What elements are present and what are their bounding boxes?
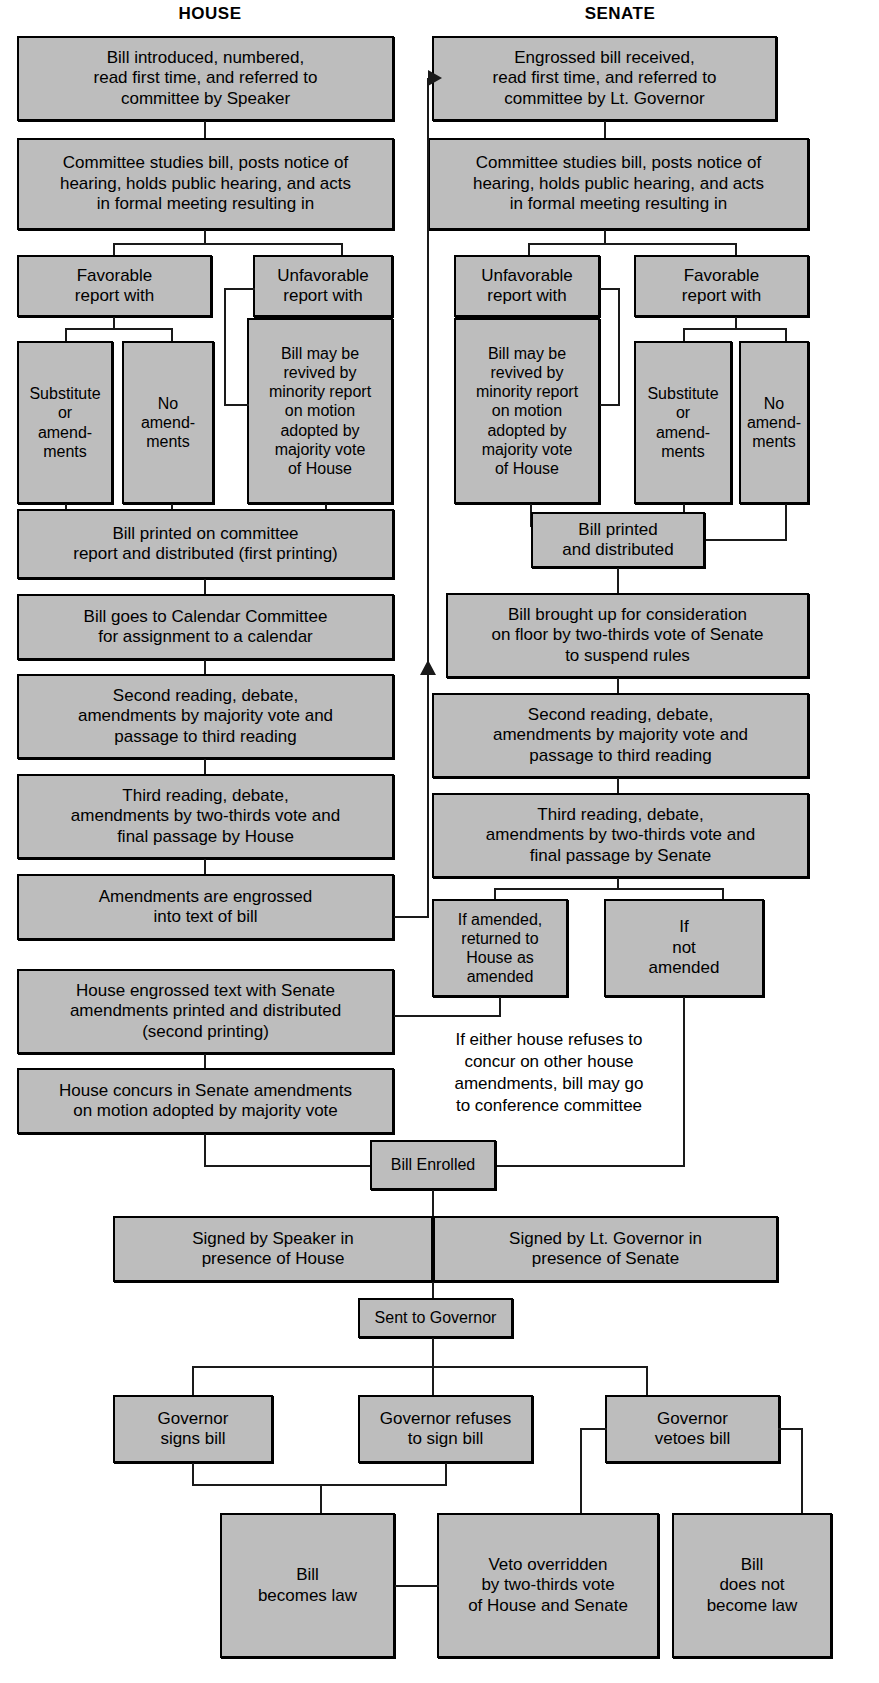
- node-bill-does-not-become-law: Bill does not become law: [672, 1513, 832, 1658]
- node-senate-if-not-amended: If not amended: [604, 899, 764, 997]
- connector-h-committee-stem: [204, 230, 206, 244]
- connector-s-unfavorable-bracket-v: [618, 288, 620, 406]
- connector-s-notamended-to-enrolled: [496, 1165, 685, 1167]
- connector-h-noamend-drop: [171, 328, 173, 342]
- node-house-bill-revived: Bill may be revived by minority report o…: [247, 318, 393, 504]
- connector-h-favorable-stem: [113, 317, 115, 329]
- connector-enrolled-to-signed: [432, 1190, 434, 1217]
- connector-s-committee-stem: [604, 230, 606, 244]
- connector-h-favorable-split: [65, 328, 173, 330]
- node-senate-no-amendments: No amend- ments: [739, 341, 809, 504]
- node-house-second-reading: Second reading, debate, amendments by ma…: [17, 674, 394, 759]
- node-house-engrossed-text-printed: House engrossed text with Senate amendme…: [17, 969, 394, 1054]
- node-senate-committee: Committee studies bill, posts notice of …: [428, 138, 809, 230]
- node-bill-becomes-law: Bill becomes law: [220, 1513, 395, 1658]
- arrow-up-riser: [420, 660, 436, 675]
- connector-h-second-to-third: [204, 759, 206, 775]
- connector-h-printed-to-calendar: [204, 579, 206, 595]
- node-senate-substitute-amendments: Substitute or amend- ments: [634, 341, 732, 504]
- node-senate-bill-revived: Bill may be revived by minority report o…: [454, 318, 600, 504]
- connector-h-unfavorable-bracket-bottom: [224, 404, 249, 406]
- connector-s-committee-split: [528, 243, 736, 245]
- node-house-calendar-committee: Bill goes to Calendar Committee for assi…: [17, 594, 394, 660]
- connector-s-third-stem: [617, 878, 619, 890]
- connector-gov-refuses-down: [445, 1463, 447, 1486]
- connector-s-noamend-down: [785, 504, 787, 541]
- connector-h-unfavorable-bracket-v: [224, 288, 226, 406]
- connector-override-to-becomes-law: [395, 1585, 439, 1587]
- connector-s-unfavorable-bracket-top: [600, 288, 620, 290]
- connector-veto-override-stem: [580, 1428, 582, 1514]
- connector-gov-signs-down: [192, 1463, 194, 1486]
- connector-s-favorable-stem: [735, 317, 737, 329]
- node-governor-signs-bill: Governor signs bill: [113, 1395, 273, 1463]
- connector-s-ifamended-down: [499, 997, 501, 1017]
- node-bill-enrolled: Bill Enrolled: [370, 1140, 496, 1190]
- node-signed-by-speaker: Signed by Speaker in presence of House: [113, 1216, 433, 1282]
- connector-governor-split: [192, 1366, 648, 1368]
- node-senate-bill-printed: Bill printed and distributed: [531, 512, 705, 568]
- connector-not-law-top: [778, 1428, 803, 1430]
- connector-h-unfavorable-bracket-top: [224, 288, 255, 290]
- connector-h-concurs-down: [204, 1134, 206, 1167]
- connector-h-engrossedtext-to-concurs: [204, 1054, 206, 1069]
- connector-gov-signs-drop: [192, 1366, 194, 1396]
- connector-s-notamended-down: [683, 997, 685, 1167]
- node-senate-third-reading: Third reading, debate, amendments by two…: [432, 793, 809, 878]
- node-house-bill-printed: Bill printed on committee report and dis…: [17, 509, 394, 579]
- connector-to-becomes-law: [320, 1484, 322, 1514]
- connector-s-printed-to-broughtup: [617, 568, 619, 594]
- flowchart-canvas: HOUSE SENATE Bill introduced, numbered, …: [0, 0, 879, 1683]
- connector-s-third-split: [494, 888, 723, 890]
- connector-gov-vetoes-drop: [646, 1366, 648, 1396]
- node-house-favorable-report: Favorable report with: [17, 255, 212, 317]
- node-governor-refuses-to-sign: Governor refuses to sign bill: [358, 1395, 533, 1463]
- node-senate-second-reading: Second reading, debate, amendments by ma…: [432, 693, 809, 778]
- arrow-into-senate-intro: [428, 70, 442, 86]
- node-house-committee: Committee studies bill, posts notice of …: [17, 138, 394, 230]
- connector-s-broughtup-to-second: [617, 678, 619, 694]
- node-senate-favorable-report: Favorable report with: [634, 255, 809, 317]
- node-house-bill-introduced: Bill introduced, numbered, read first ti…: [17, 36, 394, 121]
- riser-house-to-senate: [427, 78, 429, 918]
- connector-h-intro-to-committee: [204, 121, 206, 138]
- connector-s-intro-to-committee: [604, 121, 606, 138]
- node-house-concurs: House concurs in Senate amendments on mo…: [17, 1068, 394, 1134]
- connector-h-substitute-drop: [65, 328, 67, 342]
- column-header-senate: SENATE: [540, 4, 700, 24]
- note-conference-committee: If either house refuses to concur on oth…: [424, 1029, 674, 1117]
- connector-veto-override-top: [580, 1428, 607, 1430]
- node-sent-to-governor: Sent to Governor: [358, 1298, 513, 1338]
- node-house-unfavorable-report: Unfavorable report with: [253, 255, 393, 317]
- node-house-no-amendments: No amend- ments: [122, 341, 214, 504]
- node-senate-if-amended: If amended, returned to House as amended: [432, 899, 568, 997]
- connector-h-concurs-to-enrolled: [204, 1165, 370, 1167]
- node-house-substitute-amendments: Substitute or amend- ments: [17, 341, 113, 504]
- connector-h-engrossed-to-riser: [394, 916, 429, 918]
- column-header-house: HOUSE: [130, 4, 290, 24]
- connector-h-calendar-to-second: [204, 660, 206, 675]
- node-house-amendments-engrossed: Amendments are engrossed into text of bi…: [17, 874, 394, 940]
- connector-s-ifamended-to-house: [394, 1015, 501, 1017]
- connector-h-committee-split: [113, 243, 343, 245]
- connector-s-noamend-drop: [785, 328, 787, 342]
- node-senate-unfavorable-report: Unfavorable report with: [454, 255, 600, 317]
- connector-s-second-to-third: [617, 778, 619, 794]
- node-veto-overridden: Veto overridden by two-thirds vote of Ho…: [437, 1513, 659, 1658]
- node-signed-by-lt-governor: Signed by Lt. Governor in presence of Se…: [433, 1216, 778, 1282]
- connector-not-law-stem: [801, 1428, 803, 1514]
- node-governor-vetoes-bill: Governor vetoes bill: [605, 1395, 780, 1463]
- connector-s-unfavorable-bracket-bottom: [600, 404, 620, 406]
- node-senate-bill-received: Engrossed bill received, read first time…: [432, 36, 777, 121]
- connector-s-substitute-drop: [683, 328, 685, 342]
- connector-h-third-to-engrossed: [204, 859, 206, 875]
- node-house-third-reading: Third reading, debate, amendments by two…: [17, 774, 394, 859]
- node-senate-bill-brought-up: Bill brought up for consideration on flo…: [446, 593, 809, 678]
